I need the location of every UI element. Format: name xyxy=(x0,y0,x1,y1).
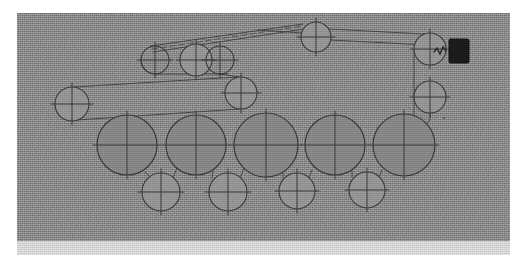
motor-block[interactable] xyxy=(449,39,469,63)
pulley-mid-left[interactable] xyxy=(51,83,93,125)
roller-2[interactable] xyxy=(162,111,230,179)
belt-top-right xyxy=(328,29,424,34)
pulley-top-left-c[interactable] xyxy=(202,42,238,78)
pulley-bot-1[interactable] xyxy=(138,169,184,215)
belt-upper-long xyxy=(151,24,303,46)
pulley-drive-diagram xyxy=(0,0,523,273)
figure-root xyxy=(0,0,523,273)
belt-nip-3-right xyxy=(309,170,312,178)
pulley-mid-center[interactable] xyxy=(221,73,261,113)
roller-3[interactable] xyxy=(230,109,302,181)
pulley-top-left-a[interactable] xyxy=(137,42,173,78)
belt-upper-long-shadow xyxy=(152,26,303,49)
belt-left-long-bottom xyxy=(77,109,240,120)
belt-nip-4-right xyxy=(379,170,382,177)
belt-nip-1-left xyxy=(145,172,150,177)
large-roller-group xyxy=(93,109,439,181)
belt-cluster-lower-right xyxy=(220,74,239,77)
scan-speck xyxy=(443,117,445,119)
drawing-layer xyxy=(0,0,523,273)
belt-nip-2-left xyxy=(212,171,213,178)
belt-left-long-top xyxy=(74,77,238,87)
pulley-bot-3[interactable] xyxy=(275,169,319,213)
belt-top-right-lower xyxy=(330,40,428,45)
roller-1[interactable] xyxy=(93,111,161,179)
pulley-right-lower[interactable] xyxy=(410,77,450,117)
roller-5[interactable] xyxy=(369,110,439,180)
roller-4[interactable] xyxy=(301,111,369,179)
